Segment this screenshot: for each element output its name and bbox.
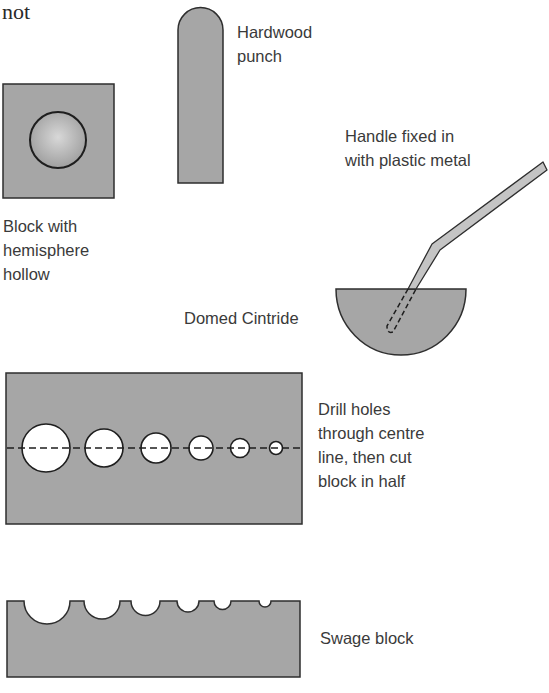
hemisphere-block	[3, 84, 114, 198]
hemisphere-hollow	[30, 112, 86, 168]
swage-block-diagram	[0, 0, 549, 693]
swage-block-label: Swage block	[320, 626, 414, 650]
swage-block	[7, 601, 300, 677]
drilled-block	[6, 373, 302, 524]
handle-rod	[408, 162, 547, 289]
hemisphere-block-label: Block with hemisphere hollow	[3, 214, 89, 286]
drilled-block-label: Drill holes through centre line, then cu…	[318, 397, 424, 493]
hardwood-punch	[178, 8, 223, 183]
hardwood-punch-label: Hardwood punch	[237, 20, 312, 68]
domed-cintride-label: Domed Cintride	[184, 306, 299, 330]
domed-cintride	[336, 162, 547, 355]
handle-label: Handle fixed in with plastic metal	[345, 124, 471, 172]
page-fragment-text: not	[2, 0, 30, 24]
dome-body	[336, 289, 466, 355]
